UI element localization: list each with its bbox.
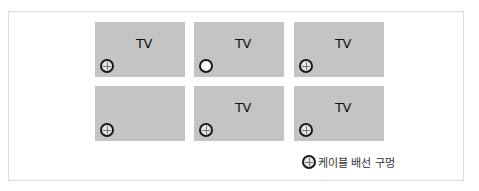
tv-label: TV [294,100,384,115]
wall-panel-2: TV [194,22,284,77]
cable-hole-plain-icon [199,59,213,73]
wall-panel-3: TV [294,22,384,77]
cable-hole-icon [302,155,316,169]
tv-label: TV [194,36,284,51]
legend: 케이블 배선 구멍 [302,154,395,170]
wall-panel-5: TV [194,86,284,141]
cable-hole-icon [299,59,313,73]
cable-hole-icon [199,123,213,137]
cable-hole-icon [100,123,114,137]
tv-label: TV [95,36,185,51]
legend-label: 케이블 배선 구멍 [318,154,395,170]
wall-panel-6: TV [294,86,384,141]
cable-hole-icon [100,59,114,73]
tv-label: TV [294,36,384,51]
wall-panel-1: TV [95,22,185,77]
tv-label: TV [194,100,284,115]
wall-panel-4 [95,86,185,141]
cable-hole-icon [299,123,313,137]
